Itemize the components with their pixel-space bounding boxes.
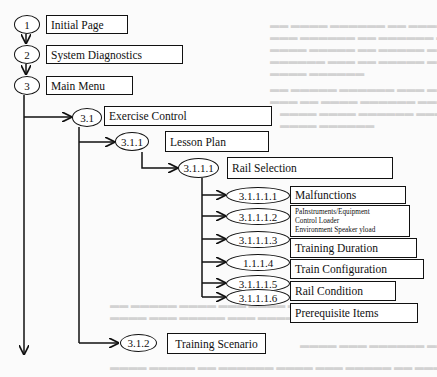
node-box-exercise-control: Exercise Control	[104, 106, 272, 126]
node-box-prerequisite-items: Prerequisite Items	[290, 303, 418, 323]
node-oval-3-1-1-1-3: 3.1.1.1.3	[226, 231, 290, 248]
equipment-line-3: Environment Speaker yload	[295, 226, 375, 235]
node-oval-3-1-1: 3.1.1	[115, 132, 149, 151]
node-oval-3-1-1-1-6: 3.1.1.1.6	[226, 289, 290, 306]
node-box-rail-selection: Rail Selection	[227, 157, 393, 179]
node-box-initial-page: Initial Page	[46, 15, 128, 34]
node-box-rail-condition: Rail Condition	[290, 281, 396, 301]
equipment-line-2: Control Loader	[295, 217, 339, 226]
node-oval-3-1: 3.1	[72, 108, 102, 127]
node-oval-3-1-1-1-2: 3.1.1.1.2	[226, 208, 290, 225]
node-box-training-duration: Training Duration	[290, 238, 417, 258]
node-oval-1: 1	[14, 15, 40, 34]
node-oval-3: 3	[14, 76, 40, 95]
equipment-line-1: PaInstruments/Equipment	[295, 208, 370, 217]
node-box-training-scenario: Training Scenario	[167, 333, 266, 354]
node-oval-3-1-2: 3.1.2	[120, 334, 157, 352]
node-box-system-diagnostics: System Diagnostics	[46, 45, 183, 64]
node-oval-3-1-1-1-4: 1.1.1.4	[226, 254, 290, 271]
node-oval-3-1-1-1-1: 3.1.1.1.1	[226, 187, 290, 204]
node-box-main-menu: Main Menu	[46, 76, 133, 95]
node-oval-2: 2	[14, 45, 40, 64]
node-box-lesson-plan: Lesson Plan	[165, 131, 269, 152]
node-box-malfunctions: Malfunctions	[290, 186, 406, 204]
node-box-train-configuration: Train Configuration	[290, 259, 424, 279]
node-box-equipment-settings: PaInstruments/Equipment Control Loader E…	[290, 205, 410, 237]
node-oval-3-1-1-1: 3.1.1.1	[178, 158, 219, 178]
